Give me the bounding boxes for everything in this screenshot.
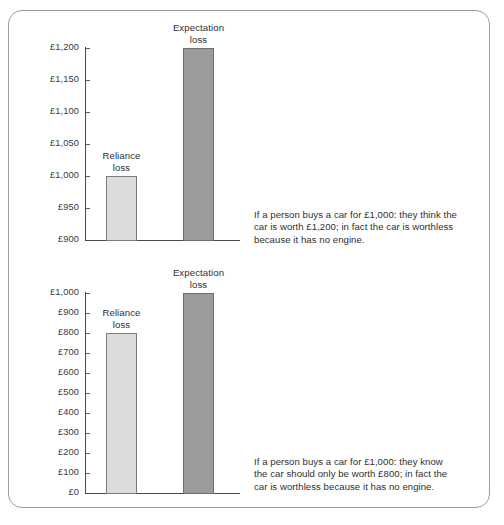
ytick-label: £950: [21, 203, 79, 212]
y-axis-tick: [86, 144, 90, 145]
chart-panel-bottom: £1,000 £900 £800 £700 £600 £500 £400 £30…: [9, 266, 491, 509]
ytick-label: £900: [21, 235, 79, 244]
bar-expectation-loss: [183, 48, 214, 241]
bar-label-reliance-loss: Reliance loss: [88, 307, 155, 330]
bar-label-reliance-loss: Reliance loss: [88, 150, 155, 173]
figure-frame: £1,200 £1,150 £1,100 £1,050 £1,000 £950 …: [8, 10, 490, 508]
bar-label-line2: loss: [88, 162, 155, 174]
bar-reliance-loss: [106, 176, 137, 241]
bar-label-expectation-loss: Expectation loss: [162, 267, 235, 290]
bar-label-line1: Expectation: [162, 22, 235, 34]
y-axis-tick: [86, 453, 90, 454]
ytick-label: £1,100: [21, 107, 79, 116]
y-axis-tick: [86, 473, 90, 474]
annotation-text-bottom: If a person buys a car for £1,000: they …: [254, 456, 462, 493]
annotation-text-top: If a person buys a car for £1,000: they …: [254, 209, 462, 246]
y-axis-tick: [86, 433, 90, 434]
ytick-label: £500: [21, 388, 79, 397]
annotation-line-1: If a person buys a car for £1,000: they …: [254, 456, 462, 468]
y-axis-tick: [86, 112, 90, 113]
ytick-label: £900: [21, 308, 79, 317]
y-axis-tick: [86, 293, 90, 294]
ytick-label: £200: [21, 448, 79, 457]
ytick-label: £300: [21, 428, 79, 437]
ytick-label: £400: [21, 408, 79, 417]
annotation-line-3: because it has no engine.: [254, 234, 462, 246]
bar-label-line2: loss: [162, 34, 235, 46]
y-axis-tick: [86, 333, 90, 334]
y-axis-tick: [86, 353, 90, 354]
annotation-line-1: If a person buys a car for £1,000: they …: [254, 209, 462, 221]
bar-label-line2: loss: [88, 319, 155, 331]
y-axis-tick: [86, 393, 90, 394]
annotation-line-2: car is worth £1,200; in fact the car is …: [254, 221, 462, 233]
bar-label-line1: Reliance: [88, 150, 155, 162]
ytick-label: £1,150: [21, 75, 79, 84]
annotation-line-3: car is worthless because it has no engin…: [254, 481, 462, 493]
ytick-label: £1,000: [21, 288, 79, 297]
ytick-label: £1,200: [21, 43, 79, 52]
chart-panel-top: £1,200 £1,150 £1,100 £1,050 £1,000 £950 …: [9, 11, 491, 266]
ytick-label: £1,050: [21, 139, 79, 148]
ytick-label: £1,000: [21, 171, 79, 180]
ytick-label: £100: [21, 468, 79, 477]
ytick-label: £0: [21, 488, 79, 497]
bar-expectation-loss: [183, 293, 214, 494]
ytick-label: £700: [21, 348, 79, 357]
y-axis-tick: [86, 373, 90, 374]
ytick-label: £800: [21, 328, 79, 337]
bar-label-line1: Reliance: [88, 307, 155, 319]
bar-label-line1: Expectation: [162, 267, 235, 279]
bar-label-expectation-loss: Expectation loss: [162, 22, 235, 45]
y-axis-tick: [86, 176, 90, 177]
bar-label-line2: loss: [162, 279, 235, 291]
ytick-label: £600: [21, 368, 79, 377]
y-axis-tick: [86, 48, 90, 49]
y-axis-tick: [86, 208, 90, 209]
y-axis-tick: [86, 413, 90, 414]
bar-reliance-loss: [106, 333, 137, 494]
y-axis-tick: [86, 80, 90, 81]
annotation-line-2: the car should only be worth £800; in fa…: [254, 468, 462, 480]
